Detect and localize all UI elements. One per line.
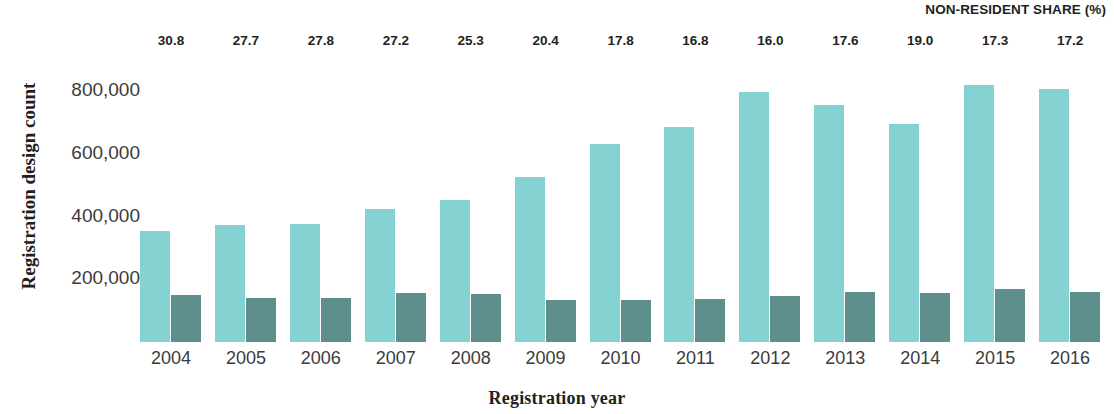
plot-area: 30.8200427.7200527.8200627.2200725.32008… (140, 60, 1114, 342)
bar-group: 17.82010 (590, 60, 665, 342)
x-tick-label: 2012 (739, 348, 801, 369)
bar-resident (889, 124, 919, 342)
bar-group: 25.32008 (440, 60, 515, 342)
bar-group: 16.82011 (664, 60, 739, 342)
y-tick-label: 400,000 (48, 205, 140, 227)
bar-group: 27.82006 (290, 60, 365, 342)
x-tick-label: 2016 (1039, 348, 1101, 369)
bar-resident (1039, 89, 1069, 342)
non-resident-share-value: 17.3 (964, 33, 1026, 48)
bar-resident (964, 85, 994, 342)
bar-non-resident (845, 292, 875, 342)
chart-figure: Registration design count NON-RESIDENT S… (0, 0, 1114, 414)
annotation-header: NON-RESIDENT SHARE (%) (925, 2, 1106, 17)
non-resident-share-value: 19.0 (889, 33, 951, 48)
bar-group: 19.02014 (889, 60, 964, 342)
bar-resident (739, 92, 769, 342)
non-resident-share-value: 20.4 (515, 33, 577, 48)
bar-resident (140, 231, 170, 342)
y-tick-label: 800,000 (48, 79, 140, 101)
bar-resident (215, 225, 245, 343)
x-tick-label: 2014 (889, 348, 951, 369)
bar-group: 27.22007 (365, 60, 440, 342)
bar-resident (440, 200, 470, 342)
bar-non-resident (396, 293, 426, 342)
non-resident-share-value: 17.6 (814, 33, 876, 48)
bar-non-resident (171, 295, 201, 342)
bar-non-resident (920, 293, 950, 342)
bar-non-resident (695, 299, 725, 342)
bar-group: 17.32015 (964, 60, 1039, 342)
bar-resident (515, 177, 545, 342)
non-resident-share-value: 17.2 (1039, 33, 1101, 48)
bar-resident (290, 224, 320, 342)
bar-group: 16.02012 (739, 60, 814, 342)
bar-resident (365, 209, 395, 342)
non-resident-share-value: 27.7 (215, 33, 277, 48)
bar-non-resident (321, 298, 351, 342)
bar-resident (590, 144, 620, 342)
non-resident-share-value: 16.8 (664, 33, 726, 48)
bar-resident (664, 127, 694, 342)
y-axis-title: Registration design count (18, 61, 40, 311)
bar-group: 20.42009 (515, 60, 590, 342)
x-tick-label: 2011 (664, 348, 726, 369)
non-resident-share-value: 27.2 (365, 33, 427, 48)
x-tick-label: 2007 (365, 348, 427, 369)
non-resident-share-value: 17.8 (590, 33, 652, 48)
bar-group: 30.82004 (140, 60, 215, 342)
bar-group: 27.72005 (215, 60, 290, 342)
bar-non-resident (246, 298, 276, 342)
bar-group: 17.22016 (1039, 60, 1114, 342)
bar-non-resident (471, 294, 501, 342)
x-tick-label: 2009 (515, 348, 577, 369)
bar-non-resident (621, 300, 651, 342)
non-resident-share-value: 25.3 (440, 33, 502, 48)
bar-non-resident (995, 289, 1025, 342)
bar-resident (814, 105, 844, 342)
x-tick-label: 2013 (814, 348, 876, 369)
non-resident-share-value: 16.0 (739, 33, 801, 48)
y-tick-label: 200,000 (48, 267, 140, 289)
x-tick-label: 2010 (590, 348, 652, 369)
x-tick-label: 2004 (140, 348, 202, 369)
bar-non-resident (1070, 292, 1100, 342)
y-tick-label: 600,000 (48, 142, 140, 164)
x-tick-label: 2006 (290, 348, 352, 369)
bar-non-resident (770, 296, 800, 342)
x-tick-label: 2005 (215, 348, 277, 369)
non-resident-share-value: 27.8 (290, 33, 352, 48)
bar-non-resident (546, 300, 576, 342)
non-resident-share-value: 30.8 (140, 33, 202, 48)
bar-group: 17.62013 (814, 60, 889, 342)
x-tick-label: 2008 (440, 348, 502, 369)
x-axis-title: Registration year (0, 388, 1114, 409)
x-tick-label: 2015 (964, 348, 1026, 369)
